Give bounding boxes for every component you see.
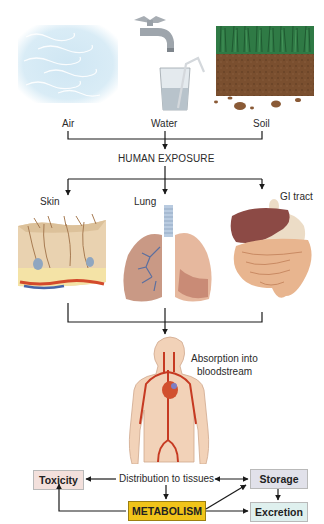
flow-connectors	[0, 0, 324, 524]
